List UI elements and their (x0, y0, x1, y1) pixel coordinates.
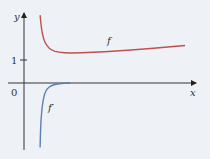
y-tick-label-1: 1 (11, 55, 17, 66)
origin-label: 0 (11, 87, 17, 98)
curve-f-prime (40, 83, 70, 147)
x-axis-label: x (190, 87, 196, 98)
chart: y x 1 0 f f′ (0, 0, 210, 159)
series-label-f: f (106, 35, 113, 46)
series-label-f-prime: f′ (47, 102, 55, 113)
y-axis-label: y (13, 11, 20, 22)
curve-f (40, 15, 185, 53)
